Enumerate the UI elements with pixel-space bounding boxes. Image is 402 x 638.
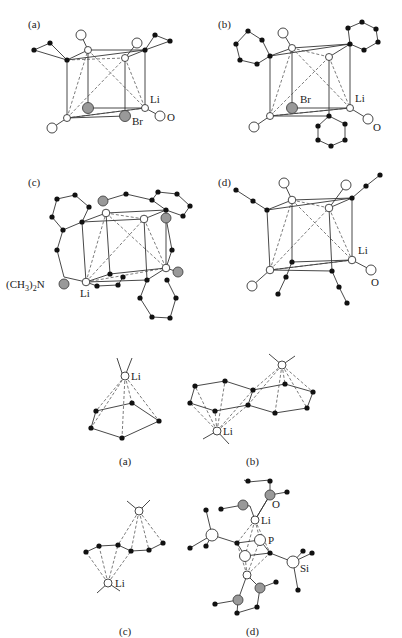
label-o: O <box>371 276 379 288</box>
upper-panel-c: (c) <box>6 176 193 321</box>
label-li: Li <box>115 577 125 589</box>
label-li: Li <box>261 514 271 526</box>
label-li: Li <box>80 287 90 299</box>
label-li: Li <box>223 425 233 437</box>
panel-tag-c: (c) <box>119 625 132 638</box>
label-li: Li <box>358 244 368 256</box>
label-li: Li <box>131 370 141 382</box>
label-br: Br <box>132 115 143 127</box>
panel-tag-b: (b) <box>218 18 231 31</box>
panel-tag-a: (a) <box>28 18 41 31</box>
panel-tag-b: (b) <box>246 455 259 468</box>
lower-panel-d: O Li P Si (d) <box>187 478 314 638</box>
panel-tag-a: (a) <box>119 455 132 468</box>
upper-panel-b: (b) Br Li <box>218 18 381 149</box>
panel-tag-d: (d) <box>246 625 259 638</box>
lower-panel-b: Li (b) <box>187 354 315 468</box>
label-nme2: (CH3)2N <box>6 278 45 293</box>
label-o: O <box>272 498 280 510</box>
lower-panel-a: Li (a) <box>88 358 161 468</box>
panel-tag-c: (c) <box>28 176 41 189</box>
label-o: O <box>373 121 381 133</box>
label-o: O <box>167 111 175 123</box>
label-br: Br <box>300 93 311 105</box>
label-p: P <box>268 534 274 546</box>
lower-panel-c: Li (c) <box>83 500 165 638</box>
label-li: Li <box>355 92 365 104</box>
label-si: Si <box>300 562 309 574</box>
upper-panel-d: (d) Li O <box>218 172 383 305</box>
label-li: Li <box>150 93 160 105</box>
figure-canvas: (a) Li Br O (b) <box>0 0 402 638</box>
panel-tag-d: (d) <box>218 176 231 189</box>
upper-panel-a: (a) Li Br O <box>28 18 175 133</box>
